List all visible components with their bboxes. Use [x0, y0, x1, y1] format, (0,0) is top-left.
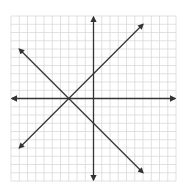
coordinate-plane — [0, 0, 183, 193]
line-1 — [19, 24, 143, 148]
line-2 — [19, 49, 143, 173]
axes — [12, 17, 175, 180]
